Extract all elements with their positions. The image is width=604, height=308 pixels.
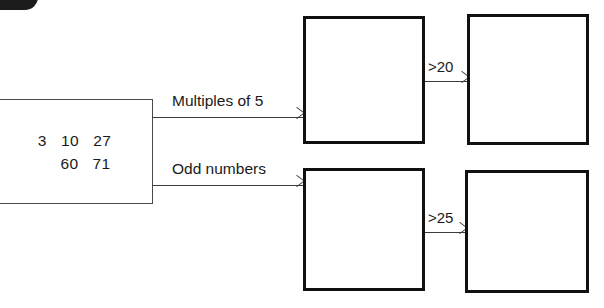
- diagram-canvas: 3 10 27 60 71 Multiples of 5 Odd numbers…: [0, 0, 604, 308]
- label-multiples-of-5: Multiples of 5: [172, 92, 263, 110]
- box-bottom-left[interactable]: [303, 168, 425, 291]
- label-odd-numbers: Odd numbers: [172, 160, 266, 178]
- branch-stub-top: [152, 99, 153, 118]
- box-top-right[interactable]: [467, 14, 589, 145]
- label-greater-than-25: >25: [428, 209, 453, 226]
- arrow-greater-than-25: [424, 232, 467, 233]
- arrow-multiples-of-5: [152, 117, 304, 118]
- label-greater-than-20: >20: [428, 58, 453, 75]
- box-top-left[interactable]: [303, 16, 425, 144]
- number-set-values: 3 10 27 60 71: [1, 100, 154, 205]
- branch-stub-bottom: [152, 185, 153, 204]
- question-number-badge: [0, 0, 38, 10]
- number-row-1: 3 10 27: [38, 132, 117, 150]
- arrow-greater-than-20: [424, 81, 469, 82]
- box-bottom-right[interactable]: [465, 170, 589, 293]
- number-row-2: 60 71: [44, 155, 110, 173]
- arrow-odd-numbers: [152, 185, 304, 186]
- number-set-box: 3 10 27 60 71: [0, 99, 153, 204]
